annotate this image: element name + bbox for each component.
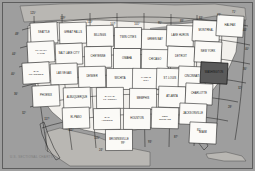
- longitude-label-5: 95°: [158, 21, 162, 25]
- chart-label-atlanta: ATLANTA: [166, 94, 178, 98]
- longitude-label-0: 125°: [30, 11, 36, 15]
- latitude-label-right-3: 32°: [238, 86, 242, 90]
- chart-label-albuquerque: ALBUQUERQUE: [67, 95, 88, 99]
- chart-label-phoenix: PHOENIX: [40, 93, 52, 97]
- bottom-graticule-label-0: 117°: [44, 117, 49, 121]
- sectional-chart-index-map: SEATTLEGREAT FALLSBILLINGSTWIN CITIESGRE…: [0, 0, 255, 171]
- bottom-graticule-label-4: 93°: [148, 140, 152, 144]
- latitude-label-left-4: 32°: [22, 111, 26, 115]
- chart-label-wichita: WICHITA: [114, 76, 125, 80]
- bottom-graticule-label-3: 99°: [121, 141, 125, 145]
- chart-label-montreal: MONTREAL: [199, 28, 214, 32]
- longitude-label-9: 71°: [232, 10, 236, 14]
- chart-label-cheyenne: CHEYENNE: [91, 54, 106, 58]
- map-canvas: SEATTLEGREAT FALLSBILLINGSTWIN CITIESGRE…: [0, 0, 255, 171]
- latitude-label-left-2: 40°: [11, 72, 15, 76]
- chart-label-halifax: HALIFAX: [224, 23, 235, 27]
- bottom-graticule-label-2: 105°: [94, 136, 100, 140]
- chart-label-salt-lake-city: SALT LAKE CITY: [58, 51, 79, 55]
- chart-label-dallas-ft-worth: DALLAS-FT. WORTH: [103, 95, 117, 101]
- longitude-label-7: 83°: [199, 16, 203, 20]
- chart-label-omaha: OMAHA: [122, 56, 132, 60]
- chart-label-washington: WASHINGTON: [205, 70, 223, 74]
- chart-label-detroit: DETROIT: [175, 54, 187, 58]
- chart-label-chicago: CHICAGO: [149, 57, 162, 61]
- longitude-label-6: 89°: [180, 19, 184, 23]
- bottom-graticule-label-5: 87°: [174, 135, 178, 139]
- latitude-label-left-1: 44°: [12, 52, 16, 56]
- latitude-label-left-3: 36°: [14, 92, 18, 96]
- chart-label-brownsville: BROWNSVILLE: [109, 137, 129, 141]
- chart-label-great-falls: GREAT FALLS: [64, 30, 82, 34]
- chart-label-charlotte: CHARLOTTE: [191, 91, 207, 95]
- chart-label-denver: DENVER: [86, 74, 97, 78]
- chart-label-billings: BILLINGS: [94, 33, 106, 37]
- chart-label-memphis: MEMPHIS: [137, 96, 150, 100]
- chart-label-seattle: SEATTLE: [38, 30, 50, 34]
- chart-label-green-bay: GREEN BAY: [147, 37, 163, 41]
- longitude-label-8: 77°: [217, 13, 221, 17]
- chart-label-new-york: NEW YORK: [201, 49, 216, 53]
- latitude-label-right-1: 40°: [245, 47, 249, 51]
- map-credit: U.S. SECTIONAL CHARTS: [10, 155, 53, 159]
- chart-label-lake-huron: LAKE HURON: [171, 33, 189, 37]
- chart-label-twin-cities: TWIN CITIES: [120, 35, 137, 39]
- bottom-graticule-label-6: 81°: [197, 128, 201, 132]
- chart-label-el-paso: EL PASO: [70, 115, 81, 119]
- latitude-label-right-0: 44°: [243, 28, 247, 32]
- longitude-label-3: 107°: [110, 22, 116, 26]
- chart-label-cincinnati: CINCINNATI: [184, 74, 199, 78]
- latitude-label-left-0: 48°: [15, 32, 19, 36]
- longitude-label-4: 101°: [134, 22, 140, 26]
- latitude-label-right-4: 28°: [228, 105, 232, 109]
- chart-label-jacksonville: JACKSONVILLE: [183, 111, 203, 115]
- longitude-label-2: 113°: [87, 20, 92, 24]
- latitude-label-right-2: 36°: [243, 67, 247, 71]
- bottom-graticule-label-7: 24°: [99, 148, 103, 152]
- bottom-graticule-label-1: 111°: [68, 128, 73, 132]
- chart-label-st-louis: ST. LOUIS: [164, 76, 177, 80]
- chart-label-las-vegas: LAS VEGAS: [56, 71, 71, 75]
- longitude-label-1: 119°: [60, 16, 65, 20]
- chart-label-houston: HOUSTON: [130, 116, 143, 120]
